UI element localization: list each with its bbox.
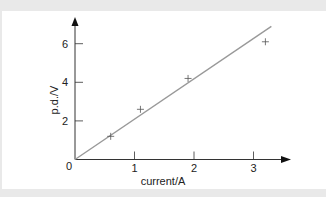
x-axis-label: current/A [141,175,186,187]
y-axis-arrow-icon [72,17,79,26]
x-tick-label: 3 [250,162,256,174]
x-tick-label: 1 [131,162,137,174]
x-tick-label: 2 [191,162,197,174]
y-axis-label: p.d./V [48,85,60,114]
ticks: 123246 [62,38,257,174]
x-axis-arrow-icon [281,156,291,163]
data-point-plus-icon [137,106,144,113]
y-tick-label: 6 [62,38,68,50]
y-tick-label: 4 [62,76,68,88]
chart-canvas: 123246 0 current/A p.d./V [0,0,326,197]
data-points [107,38,269,140]
data-point-plus-icon [262,38,269,45]
fit-line [75,26,271,159]
y-tick-label: 2 [62,115,68,127]
axes [72,17,292,163]
best-fit-line [75,26,271,159]
origin-label: 0 [66,160,72,172]
